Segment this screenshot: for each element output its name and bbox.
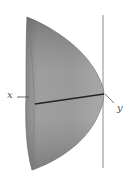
y-axis-label: y xyxy=(117,102,123,113)
x-axis-label: x xyxy=(7,89,13,100)
diagram-canvas xyxy=(0,0,130,179)
paraboloid-shading xyxy=(26,17,104,170)
y-label-leader xyxy=(105,94,114,103)
